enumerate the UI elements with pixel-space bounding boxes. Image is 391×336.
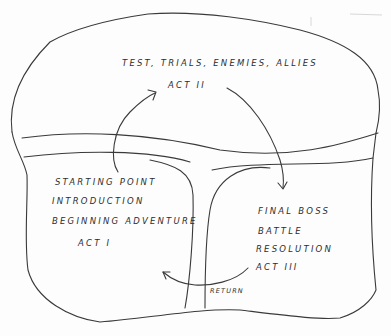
return-label: RETURN	[210, 287, 244, 295]
act3-line-2: BATTLE	[258, 226, 303, 236]
band-line-upper	[22, 133, 378, 153]
act1-line-3: BEGINNING ADVENTURE	[52, 216, 198, 226]
act1-label: ACT I	[78, 238, 111, 248]
act3-line-1: FINAL BOSS	[258, 206, 330, 216]
outer-boundary	[11, 13, 379, 133]
stray-mark	[350, 14, 382, 15]
outer-boundary-lower	[12, 132, 376, 322]
act1-line-1: STARTING POINT	[55, 177, 157, 187]
arrowhead-icon	[278, 182, 287, 189]
story-structure-sketch: TEST, TRIALS, ENEMIES, ALLIES ACT II STA…	[0, 0, 391, 336]
arrow-act1-to-act2	[114, 93, 155, 172]
sketch-lines	[0, 0, 391, 336]
act2-label: ACT II	[168, 80, 206, 90]
act1-line-2: INTRODUCTION	[52, 196, 145, 206]
act2-description: TEST, TRIALS, ENEMIES, ALLIES	[122, 58, 318, 68]
band-line-lower	[24, 152, 373, 170]
act3-label: ACT III	[256, 262, 299, 272]
act3-line-3: RESOLUTION	[256, 244, 333, 254]
